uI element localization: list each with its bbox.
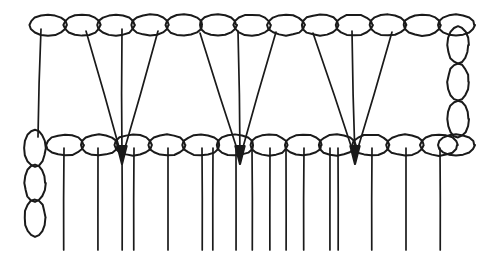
stitch-chart-svg: Crochet stitch chart (0, 0, 492, 264)
canvas-background (0, 0, 492, 264)
crochet-stitch-diagram: Crochet stitch chart (0, 0, 492, 264)
